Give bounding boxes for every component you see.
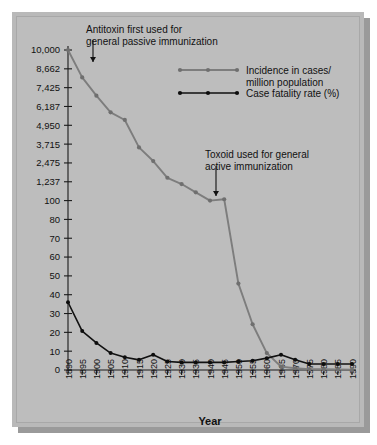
legend-fatality-sample-marker xyxy=(178,91,182,95)
x-axis-tick-label: 1965 xyxy=(277,359,287,379)
antitoxin-annotation-line2: general passive immunization xyxy=(86,36,218,47)
legend-fatality-label-line1: Case fatality rate (%) xyxy=(246,88,339,99)
y-axis-tick-label: 10,000 xyxy=(31,44,60,55)
data-point-incidence xyxy=(66,48,70,52)
data-point-incidence xyxy=(251,322,255,326)
data-point-incidence xyxy=(293,366,297,370)
data-point-fatality xyxy=(222,360,226,364)
x-axis-tick-label: 1905 xyxy=(106,359,116,379)
y-axis-tick-label: 30 xyxy=(49,308,60,319)
data-point-fatality xyxy=(307,362,311,366)
data-point-incidence xyxy=(307,367,311,371)
y-axis-tick-label: 1,237 xyxy=(36,176,60,187)
data-point-fatality xyxy=(137,358,141,362)
data-point-incidence xyxy=(322,367,326,371)
y-axis-tick-label: 80 xyxy=(49,214,60,225)
legend-incidence-label-line1: Incidence in cases/ xyxy=(246,65,331,76)
x-axis-tick-label: 1960 xyxy=(262,359,272,379)
x-axis-tick-label: 1915 xyxy=(135,359,145,379)
legend-fatality-sample-marker xyxy=(206,91,210,95)
data-point-fatality xyxy=(208,360,212,364)
y-axis-tick-label: 70 xyxy=(49,233,60,244)
legend-fatality-sample-marker xyxy=(235,91,239,95)
data-point-fatality xyxy=(151,353,155,357)
y-axis-tick-label: 6,187 xyxy=(36,101,60,112)
y-axis-tick-label: 20 xyxy=(49,327,60,338)
data-point-fatality xyxy=(180,360,184,364)
data-point-incidence xyxy=(336,367,340,371)
data-point-fatality xyxy=(265,356,269,360)
toxoid-annotation-arrow-head xyxy=(213,191,219,196)
data-point-incidence xyxy=(194,190,198,194)
chart-plot-area: 010203040506070801001,2372,4753,7154,950… xyxy=(0,0,377,445)
y-axis-tick-label: 7,425 xyxy=(36,82,60,93)
data-point-incidence xyxy=(165,176,169,180)
data-point-fatality xyxy=(165,360,169,364)
legend-incidence-sample-marker xyxy=(235,68,239,72)
legend-incidence-label-line2: million population xyxy=(246,77,323,88)
data-point-incidence xyxy=(123,118,127,122)
data-point-fatality xyxy=(194,360,198,364)
data-point-fatality xyxy=(279,353,283,357)
y-axis-tick-label: 100 xyxy=(44,195,60,206)
x-axis-title: Year xyxy=(198,415,222,427)
y-axis-tick-label: 50 xyxy=(49,270,60,281)
legend-incidence-sample-marker xyxy=(178,68,182,72)
x-axis-tick-label: 1890 xyxy=(64,359,74,379)
x-axis-tick-label: 1900 xyxy=(92,359,102,379)
data-point-fatality xyxy=(94,341,98,345)
data-point-incidence xyxy=(350,368,354,372)
data-point-incidence xyxy=(236,282,240,286)
toxoid-annotation-line2: active immunization xyxy=(205,161,293,172)
data-point-fatality xyxy=(123,355,127,359)
data-point-fatality xyxy=(350,362,354,366)
data-point-fatality xyxy=(293,358,297,362)
y-axis-tick-label: 3,715 xyxy=(36,139,60,150)
y-axis-tick-label: 4,950 xyxy=(36,120,60,131)
data-point-fatality xyxy=(336,362,340,366)
data-point-fatality xyxy=(109,351,113,355)
data-point-incidence xyxy=(80,75,84,79)
data-point-incidence xyxy=(222,197,226,201)
data-point-fatality xyxy=(251,359,255,363)
data-point-fatality xyxy=(80,329,84,333)
y-axis-tick-label: 10 xyxy=(49,346,60,357)
chart-figure: 010203040506070801001,2372,4753,7154,950… xyxy=(0,0,377,445)
y-axis-tick-label: 2,475 xyxy=(36,157,60,168)
data-point-fatality xyxy=(322,362,326,366)
data-point-incidence xyxy=(94,94,98,98)
data-point-fatality xyxy=(66,300,70,304)
data-point-incidence xyxy=(151,159,155,163)
y-axis-tick-label: 60 xyxy=(49,251,60,262)
data-point-incidence xyxy=(180,182,184,186)
data-point-incidence xyxy=(109,110,113,114)
x-axis-tick-label: 1910 xyxy=(120,359,130,379)
antitoxin-annotation-line1: Antitoxin first used for xyxy=(86,24,183,35)
x-axis-tick-label: 1895 xyxy=(78,359,88,379)
legend-incidence-sample-marker xyxy=(206,68,210,72)
y-axis-tick-label: 8,662 xyxy=(36,63,60,74)
y-axis-tick-label: 0 xyxy=(55,364,60,375)
data-point-incidence xyxy=(265,351,269,355)
y-axis-tick-label: 40 xyxy=(49,289,60,300)
x-axis-tick-label: 1920 xyxy=(149,359,159,379)
toxoid-annotation-line1: Toxoid used for general xyxy=(205,149,309,160)
data-point-incidence xyxy=(279,365,283,369)
antitoxin-annotation-arrow-head xyxy=(90,57,96,62)
data-point-incidence xyxy=(208,198,212,202)
data-point-incidence xyxy=(137,145,141,149)
data-point-fatality xyxy=(236,360,240,364)
